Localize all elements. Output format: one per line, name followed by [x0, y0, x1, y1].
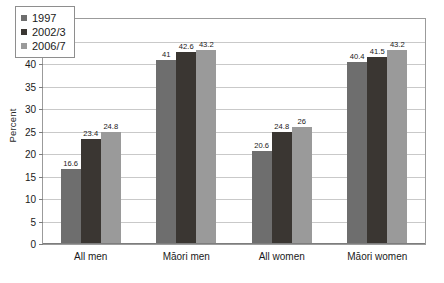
bar-value-label: 16.6	[63, 159, 78, 168]
y-tick-label: 25	[25, 126, 36, 137]
bar-value-label: 43.2	[390, 40, 405, 49]
y-tick-label: 0	[30, 239, 36, 250]
bar: 43.2	[196, 50, 216, 244]
bar-value-label: 23.4	[83, 129, 98, 138]
bar-value-label: 24.8	[274, 122, 289, 131]
bar-group: 20.624.826All women	[234, 19, 330, 244]
bar-group-bars: 20.624.826	[234, 19, 330, 244]
legend-item-label: 2002/3	[32, 26, 66, 38]
y-tick-label: 40	[25, 59, 36, 70]
y-tick-label: 15	[25, 171, 36, 182]
y-tick-label: 20	[25, 149, 36, 160]
bar-group: 4142.643.2Māori men	[139, 19, 235, 244]
y-axis-title: Percent	[7, 86, 18, 166]
bar-group: 40.441.543.2Māori women	[330, 19, 426, 244]
legend-swatch-icon	[21, 43, 27, 49]
y-tick-label: 5	[30, 216, 36, 227]
bar: 40.4	[347, 62, 367, 244]
x-tick-label: All men	[43, 251, 139, 262]
legend-item: 1997	[21, 11, 66, 25]
x-tick-label: Māori women	[330, 251, 426, 262]
bar: 43.2	[387, 50, 407, 244]
bar: 24.8	[272, 132, 292, 244]
bar-value-label: 41.5	[370, 47, 385, 56]
bar-value-label: 43.2	[199, 40, 214, 49]
y-tick-label: 35	[25, 81, 36, 92]
legend-swatch-icon	[21, 15, 27, 21]
bar: 41	[156, 60, 176, 245]
plot-area: 50454035302520151050 16.623.424.8All men…	[42, 18, 426, 245]
legend-item-label: 1997	[32, 12, 56, 24]
bar-value-label: 26	[298, 117, 306, 126]
bar: 24.8	[101, 132, 121, 244]
y-tick-label: 30	[25, 104, 36, 115]
bar-value-label: 40.4	[350, 52, 365, 61]
chart-legend: 19972002/32006/7	[15, 6, 75, 58]
x-axis-line	[43, 243, 425, 244]
bar-group-bars: 4142.643.2	[139, 19, 235, 244]
bar: 20.6	[252, 151, 272, 244]
x-tick-label: Māori men	[139, 251, 235, 262]
y-tick-mark	[39, 244, 43, 245]
bar-group-bars: 40.441.543.2	[330, 19, 426, 244]
legend-item-label: 2006/7	[32, 40, 66, 52]
bar: 23.4	[81, 139, 101, 244]
bar-value-label: 42.6	[179, 42, 194, 51]
legend-swatch-icon	[21, 29, 27, 35]
bar: 26	[292, 127, 312, 244]
bar-chart: Percent 50454035302520151050 16.623.424.…	[0, 0, 444, 283]
y-tick-label: 10	[25, 194, 36, 205]
legend-item: 2006/7	[21, 39, 66, 53]
legend-item: 2002/3	[21, 25, 66, 39]
bar: 41.5	[367, 57, 387, 244]
x-tick-label: All women	[234, 251, 330, 262]
bar: 16.6	[61, 169, 81, 244]
bar: 42.6	[176, 52, 196, 244]
bar-value-label: 20.6	[254, 141, 269, 150]
bar-value-label: 41	[162, 50, 170, 59]
bar-value-label: 24.8	[103, 122, 118, 131]
